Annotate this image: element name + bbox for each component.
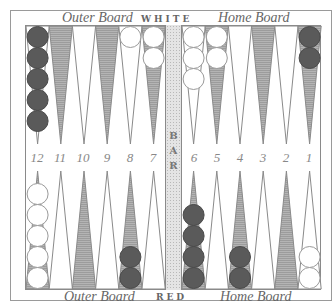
white-checker[interactable] [206,27,227,48]
white-checker[interactable] [183,48,204,69]
red-checker[interactable] [27,48,48,69]
red-checker[interactable] [27,69,48,90]
point-11[interactable] [49,26,72,144]
point-number-6: 6 [182,151,206,164]
point-number-9: 9 [95,151,119,164]
point-10[interactable] [72,26,95,144]
white-checker[interactable] [143,48,164,69]
white-checker[interactable] [27,205,48,226]
point-9[interactable] [96,26,119,144]
point-2[interactable] [275,26,298,144]
point-number-4: 4 [228,151,252,164]
bar-letter-a: A [166,144,181,157]
red-checker[interactable] [27,111,48,132]
point-number-1: 1 [297,151,321,164]
red-checker[interactable] [120,268,141,289]
white-checker[interactable] [27,184,48,205]
red-checker[interactable] [27,90,48,111]
red-checker[interactable] [230,247,251,268]
bar[interactable]: B A R [165,25,182,290]
point-number-10: 10 [71,151,95,164]
point-13[interactable] [96,171,119,289]
bottom-player-label: RED [156,292,187,302]
point-3[interactable] [252,26,275,144]
point-number-11: 11 [48,151,72,164]
red-checker[interactable] [27,27,48,48]
point-13[interactable] [72,171,95,289]
point-number-2: 2 [274,151,298,164]
white-checker[interactable] [27,247,48,268]
point-13[interactable] [252,171,275,289]
white-checker[interactable] [299,268,320,289]
point-number-5: 5 [205,151,229,164]
white-checker[interactable] [206,48,227,69]
top-player-label: WHITE [141,14,192,24]
point-number-12: 12 [25,151,49,164]
white-checker[interactable] [27,268,48,289]
red-checker[interactable] [183,268,204,289]
bar-letter-b: B [166,129,181,142]
point-13[interactable] [49,171,72,289]
top-outer-board-label: Outer Board [62,11,133,25]
point-number-8: 8 [118,151,142,164]
white-checker[interactable] [143,27,164,48]
red-checker[interactable] [230,268,251,289]
point-4[interactable] [228,26,251,144]
red-checker[interactable] [120,247,141,268]
red-checker[interactable] [183,247,204,268]
bottom-outer-board-label: Outer Board [64,290,135,304]
point-13[interactable] [142,171,165,289]
white-checker[interactable] [120,27,141,48]
point-13[interactable] [275,171,298,289]
point-number-7: 7 [141,151,165,164]
white-checker[interactable] [299,247,320,268]
top-home-board-label: Home Board [218,11,289,25]
white-checker[interactable] [183,27,204,48]
red-checker[interactable] [299,48,320,69]
white-checker[interactable] [27,226,48,247]
bottom-home-board-label: Home Board [220,290,291,304]
point-number-3: 3 [251,151,275,164]
point-13[interactable] [205,171,228,289]
white-checker[interactable] [183,69,204,90]
bar-letter-r: R [166,159,181,172]
red-checker[interactable] [183,205,204,226]
red-checker[interactable] [299,27,320,48]
red-checker[interactable] [183,226,204,247]
